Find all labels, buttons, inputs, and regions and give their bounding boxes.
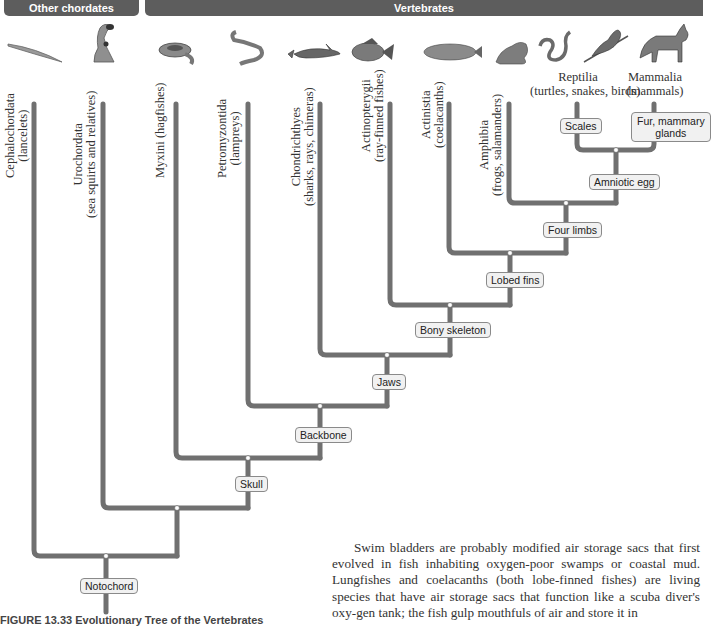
trait-backbone: Backbone xyxy=(295,427,352,443)
trait-lobed-fins: Lobed fins xyxy=(486,272,544,288)
trait-scales: Scales xyxy=(560,118,602,134)
trait-jaws: Jaws xyxy=(372,374,406,390)
body-paragraph: Swim bladders are probably modified air … xyxy=(332,540,700,621)
trait-fur-mammary-glands: Fur, mammaryglands xyxy=(631,112,711,142)
trait-bony-skeleton: Bony skeleton xyxy=(415,322,491,338)
trait-amniotic-egg: Amniotic egg xyxy=(589,174,660,190)
body-text: Swim bladders are probably modified air … xyxy=(332,540,700,621)
trait-notochord: Notochord xyxy=(80,578,138,594)
trait-four-limbs: Four limbs xyxy=(543,222,602,238)
trait-skull: Skull xyxy=(235,476,268,492)
figure-caption: FIGURE 13.33 Evolutionary Tree of the Ve… xyxy=(0,614,263,626)
